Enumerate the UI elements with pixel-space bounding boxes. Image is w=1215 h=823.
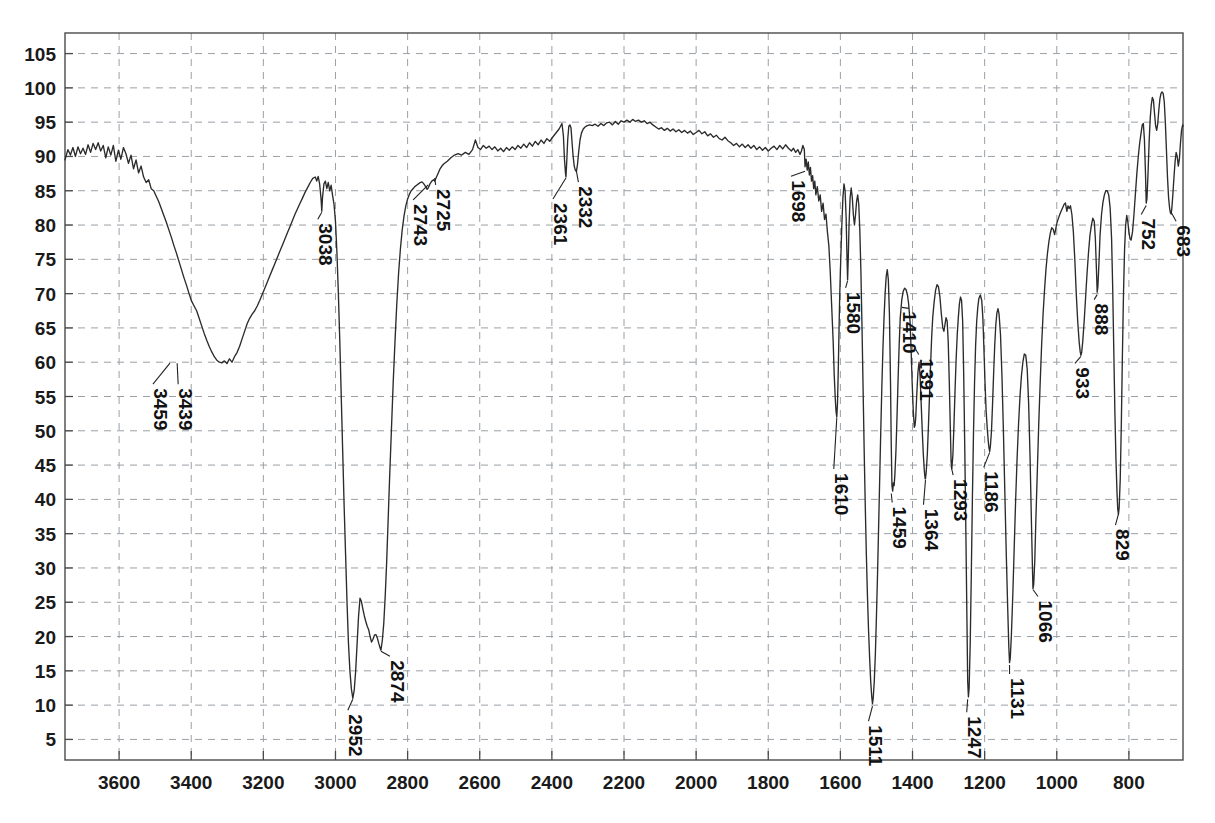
peak-leader-1410: [902, 307, 909, 308]
peak-label-2743: 2743: [410, 204, 431, 246]
x-tick-label: 2800: [386, 772, 428, 793]
y-tick-label: 65: [35, 318, 57, 339]
y-tick-label: 60: [35, 352, 56, 373]
peak-label-683: 683: [1173, 225, 1194, 257]
y-tick-label: 100: [24, 78, 56, 99]
y-tick-label: 55: [35, 387, 57, 408]
x-tick-label: 3000: [314, 772, 356, 793]
peak-label-2361: 2361: [550, 203, 571, 246]
peak-leader-2874: [381, 651, 390, 656]
peak-label-829: 829: [1112, 529, 1133, 561]
x-tick-label: 2600: [459, 772, 501, 793]
peak-leader-1459: [891, 494, 892, 503]
x-tick-label: 1000: [1036, 772, 1078, 793]
peak-leader-3038: [318, 212, 322, 219]
peak-label-2332: 2332: [575, 186, 596, 228]
y-tick-label: 80: [35, 215, 56, 236]
peak-label-3038: 3038: [315, 223, 336, 265]
y-tick-label: 70: [35, 284, 56, 305]
peak-label-1580: 1580: [843, 292, 864, 334]
x-axis-tick-labels: 3600340032003000280026002400220020001800…: [98, 772, 1145, 793]
y-tick-label: 90: [35, 146, 56, 167]
x-tick-label: 1800: [747, 772, 789, 793]
peak-label-1131: 1131: [1007, 678, 1028, 720]
peak-label-1698: 1698: [788, 180, 809, 222]
peak-label-1066: 1066: [1035, 601, 1056, 643]
peak-leader-1511: [868, 706, 872, 721]
peak-leader-3459: [153, 363, 170, 384]
x-tick-label: 2400: [531, 772, 573, 793]
x-tick-label: 3200: [242, 772, 284, 793]
y-tick-label: 40: [35, 489, 56, 510]
peak-leader-829: [1115, 514, 1118, 525]
y-tick-label: 50: [35, 421, 56, 442]
x-tick-label: 2200: [603, 772, 645, 793]
x-tick-label: 2000: [675, 772, 717, 793]
x-tick-label: 3600: [98, 772, 140, 793]
peak-label-1391: 1391: [916, 358, 937, 401]
peak-label-1186: 1186: [981, 471, 1002, 512]
x-tick-label: 1400: [891, 772, 933, 793]
y-tick-label: 20: [35, 627, 56, 648]
peak-label-3439: 3439: [175, 388, 196, 430]
x-tick-label: 800: [1113, 772, 1145, 793]
y-axis-tick-labels: 1051009590858075706560555045403530252015…: [24, 44, 56, 751]
peak-leader-3439: [177, 363, 178, 384]
peak-label-2874: 2874: [387, 660, 408, 703]
x-tick-label: 1200: [964, 772, 1006, 793]
peak-leader-1580: [846, 281, 848, 288]
y-tick-label: 35: [35, 524, 57, 545]
ir-spectrum-page: 1051009590858075706560555045403530252015…: [0, 0, 1215, 823]
y-tick-label: 85: [35, 181, 57, 202]
peak-label-1247: 1247: [964, 716, 985, 758]
peak-leader-1610: [834, 418, 837, 469]
y-tick-label: 105: [24, 44, 56, 65]
peak-label-933: 933: [1072, 367, 1093, 399]
peak-label-3459: 3459: [150, 388, 171, 430]
y-tick-label: 45: [35, 455, 57, 476]
peak-label-752: 752: [1138, 218, 1159, 250]
y-tick-label: 10: [35, 695, 56, 716]
peak-label-888: 888: [1091, 304, 1112, 336]
y-tick-label: 95: [35, 112, 57, 133]
y-tick-label: 15: [35, 661, 57, 682]
y-tick-label: 25: [35, 592, 57, 613]
peak-leader-683: [1171, 212, 1176, 221]
peak-leader-888: [1094, 295, 1097, 300]
peak-leader-752: [1141, 205, 1146, 214]
peak-label-1610: 1610: [831, 473, 852, 515]
peak-label-2952: 2952: [345, 714, 366, 756]
peak-label-1364: 1364: [920, 509, 941, 552]
chart-gridlines: [65, 33, 1183, 760]
peak-label-1511: 1511: [865, 725, 886, 767]
peak-label-1410: 1410: [899, 311, 920, 353]
y-tick-label: 5: [45, 729, 56, 750]
peak-leader-2332: [576, 171, 578, 182]
peak-leader-2361: [553, 178, 566, 199]
peak-leader-1698: [791, 171, 805, 176]
peak-leader-1364: [923, 480, 925, 505]
peak-label-2725: 2725: [433, 189, 454, 232]
peak-leader-1066: [1033, 590, 1038, 597]
ir-spectrum-chart: 1051009590858075706560555045403530252015…: [0, 0, 1215, 823]
y-tick-label: 30: [35, 558, 56, 579]
peak-label-1459: 1459: [889, 507, 910, 549]
peak-label-1293: 1293: [950, 479, 971, 521]
y-tick-label: 75: [35, 249, 57, 270]
peak-leader-2743: [413, 185, 428, 200]
x-tick-label: 3400: [170, 772, 212, 793]
x-tick-label: 1600: [819, 772, 861, 793]
peak-leader-1247: [967, 699, 968, 712]
